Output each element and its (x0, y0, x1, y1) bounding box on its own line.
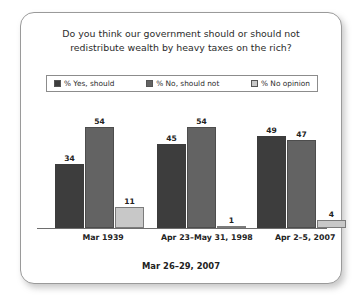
legend-swatch-icon-yes-should (54, 80, 61, 87)
bar-value-label: 1 (214, 216, 250, 225)
legend-item-no-should-not: % No, should not (146, 79, 219, 88)
bar (115, 207, 144, 228)
bar-value-label: 47 (284, 130, 320, 139)
bar-value-label: 4 (314, 210, 350, 219)
bar-value-label: 54 (82, 117, 118, 126)
x-axis-label: Apr 2–5, 2007 (275, 233, 335, 242)
bar (55, 164, 84, 227)
x-axis-labels: Mar 1939Apr 23–May 31, 1998Apr 2–5, 2007 (37, 233, 327, 247)
chart-title: Do you think our government should or sh… (33, 27, 329, 54)
legend-item-no-opinion: % No opinion (251, 79, 310, 88)
bar (217, 226, 246, 228)
legend-swatch-icon-no-opinion (251, 80, 258, 87)
x-axis-label: Apr 23–May 31, 1998 (161, 233, 253, 242)
chart-legend: % Yes, should % No, should not % No opin… (46, 75, 318, 92)
chart-title-line-1: Do you think our government should or sh… (33, 27, 329, 41)
legend-item-yes-should: % Yes, should (54, 79, 115, 88)
legend-label-yes-should: % Yes, should (64, 79, 115, 88)
bar (287, 140, 316, 228)
bar (187, 127, 216, 228)
bar-value-label: 45 (154, 134, 190, 143)
legend-swatch-icon-no-should-not (146, 80, 153, 87)
bar (85, 127, 114, 228)
bar (157, 144, 186, 228)
bar-value-label: 34 (52, 154, 88, 163)
bar (317, 220, 346, 227)
chart-footer-date: Mar 26–29, 2007 (33, 261, 329, 271)
chart-title-line-2: redistribute wealth by heavy taxes on th… (33, 41, 329, 55)
legend-label-no-opinion: % No opinion (261, 79, 310, 88)
bar (257, 136, 286, 227)
bar-value-label: 54 (184, 117, 220, 126)
legend-label-no-should-not: % No, should not (156, 79, 219, 88)
x-axis-label: Mar 1939 (83, 233, 124, 242)
chart-card: Do you think our government should or sh… (20, 12, 342, 284)
bar-value-label: 11 (112, 197, 148, 206)
x-axis-line (37, 228, 327, 230)
chart-plot-area: 3454114554149474 (37, 113, 327, 229)
